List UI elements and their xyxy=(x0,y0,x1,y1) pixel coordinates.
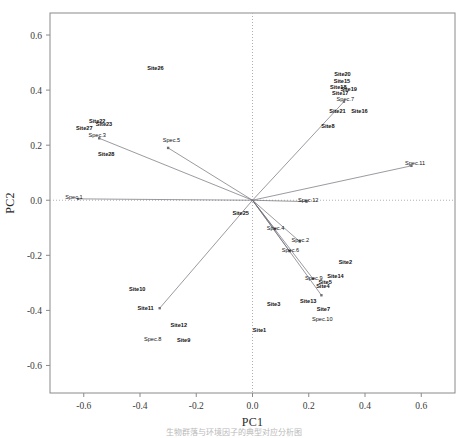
species-label-spec6: Spec.6 xyxy=(282,247,299,253)
species-label-spec8: Spec.8 xyxy=(144,336,161,342)
species-label-spec9: Spec.9 xyxy=(305,275,322,281)
site-label-site25: Site25 xyxy=(232,210,248,216)
site-label-site12: Site12 xyxy=(171,322,187,328)
pca-biplot-figure: -0.6-0.4-0.20.00.20.40.60.60.40.20.0-0.2… xyxy=(0,0,467,438)
site-label-site3: Site3 xyxy=(267,301,280,307)
species-label-spec5: Spec.5 xyxy=(163,137,180,143)
site-label-site26: Site26 xyxy=(147,65,163,71)
y-tick-label: -0.2 xyxy=(27,251,42,261)
species-label-spec2: Spec.2 xyxy=(292,237,309,243)
y-tick-label: -0.6 xyxy=(27,361,42,371)
species-label-spec3: Spec.3 xyxy=(89,132,106,138)
vector-endpoint xyxy=(158,307,160,309)
site-label-site14: Site14 xyxy=(327,273,344,279)
site-label-site20: Site20 xyxy=(334,71,350,77)
species-label-spec12: Spec.12 xyxy=(298,197,319,203)
y-tick-label: 0.4 xyxy=(30,86,42,96)
species-label-spec10: Spec.10 xyxy=(312,316,333,322)
x-tick-label: 0.4 xyxy=(359,401,371,411)
site-label-site19: Site19 xyxy=(340,86,356,92)
x-tick-label: 0.6 xyxy=(415,401,427,411)
site-label-site28: Site28 xyxy=(98,151,114,157)
y-axis-title: PC2 xyxy=(3,192,17,214)
y-tick-label: 0.2 xyxy=(30,141,42,151)
y-tick-label: -0.4 xyxy=(27,306,42,316)
site-label-site8: Site8 xyxy=(321,123,334,129)
y-tick-label: 0.6 xyxy=(30,31,42,41)
species-label-spec7: Spec.7 xyxy=(337,96,354,102)
x-tick-label: 0.0 xyxy=(247,401,259,411)
site-label-site21: Site21 xyxy=(329,108,345,114)
vector-endpoint xyxy=(167,147,169,149)
vector-endpoint xyxy=(320,294,322,296)
species-label-spec4: Spec.4 xyxy=(267,225,284,231)
site-label-site27: Site27 xyxy=(76,125,92,131)
site-label-site11: Site11 xyxy=(138,305,154,311)
site-label-site16: Site16 xyxy=(351,108,367,114)
species-label-spec11: Spec.11 xyxy=(405,160,425,166)
y-tick-label: 0.0 xyxy=(30,196,42,206)
pca-biplot-svg: -0.6-0.4-0.20.00.20.40.60.60.40.20.0-0.2… xyxy=(0,0,467,438)
x-tick-label: -0.4 xyxy=(132,401,147,411)
site-label-site10: Site10 xyxy=(129,286,145,292)
site-label-site2: Site2 xyxy=(339,259,352,265)
site-label-site13: Site13 xyxy=(300,298,316,304)
x-tick-label: 0.2 xyxy=(303,401,315,411)
site-label-site1: Site1 xyxy=(253,327,266,333)
site-label-site7: Site7 xyxy=(317,306,330,312)
species-label-spec1: Spec.1 xyxy=(65,194,82,200)
x-tick-label: -0.6 xyxy=(76,401,91,411)
plot-background xyxy=(0,0,467,438)
site-label-site23: Site23 xyxy=(96,121,112,127)
figure-caption: 生物群落与环境因子的典型对应分析图 xyxy=(0,427,467,438)
x-tick-label: -0.2 xyxy=(189,401,204,411)
site-label-site9: Site9 xyxy=(177,337,190,343)
